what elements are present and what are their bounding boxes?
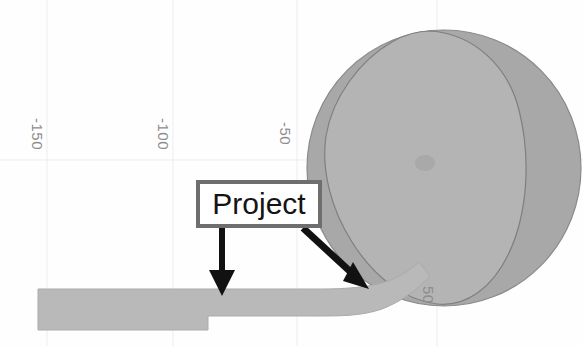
tick-label-plus50: 50 [420,286,437,304]
project-callout-label: Project [212,189,305,219]
figure-canvas: -150 -100 -50 50 Project [0,0,583,346]
tick-label-minus50: -50 [277,122,294,145]
tick-label-minus100: -100 [155,118,172,150]
project-callout-box[interactable]: Project [196,180,322,228]
arrow-diagonal-to-notch [303,228,369,289]
arrow-down-to-bar [209,228,235,296]
tick-label-minus150: -150 [29,118,46,150]
arrows-layer [0,0,583,346]
